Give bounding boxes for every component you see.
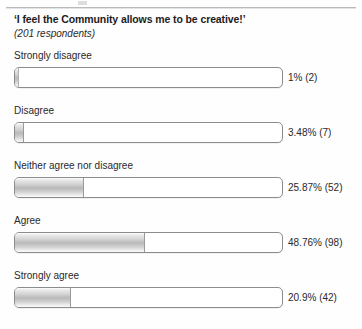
bar-line: 48.76% (98): [14, 232, 362, 254]
bar-track: [14, 232, 283, 253]
bar-row: Strongly disagree 1% (2): [0, 49, 362, 104]
survey-results-chart: ‘I feel the Community allows me to be cr…: [0, 0, 362, 329]
bar-fill: [15, 288, 71, 307]
bar-fill: [15, 123, 24, 142]
bar-fill: [15, 68, 19, 87]
bar-value-label: 1% (2): [288, 71, 317, 84]
bar-track: [14, 122, 283, 143]
bar-row-label: Neither agree nor disagree: [14, 159, 133, 172]
bar-row: Strongly agree 20.9% (42): [0, 269, 362, 324]
chart-subtitle-respondents: (201 respondents): [14, 27, 350, 40]
bar-row-label: Disagree: [14, 104, 54, 117]
bar-track: [14, 67, 283, 88]
bar-track: [14, 177, 283, 198]
bar-value-label: 3.48% (7): [288, 126, 331, 139]
bar-fill: [15, 233, 145, 252]
bar-row-label: Agree: [14, 214, 41, 227]
bar-row: Agree 48.76% (98): [0, 214, 362, 269]
bar-row: Disagree 3.48% (7): [0, 104, 362, 159]
bar-row: Neither agree nor disagree 25.87% (52): [0, 159, 362, 214]
bar-line: 1% (2): [14, 67, 362, 89]
page-artifact-speck: [78, 1, 87, 5]
bar-value-label: 25.87% (52): [288, 181, 342, 194]
top-divider-rule-shadow: [6, 8, 356, 9]
bar-row-label: Strongly disagree: [14, 49, 92, 62]
bar-rows: Strongly disagree 1% (2) Disagree 3.48% …: [0, 49, 362, 324]
bar-track: [14, 287, 283, 308]
bar-value-label: 20.9% (42): [288, 291, 337, 304]
bar-fill: [15, 178, 84, 197]
chart-title: ‘I feel the Community allows me to be cr…: [14, 13, 350, 26]
chart-heading: ‘I feel the Community allows me to be cr…: [14, 13, 350, 40]
bar-value-label: 48.76% (98): [288, 236, 342, 249]
bar-line: 20.9% (42): [14, 287, 362, 309]
bar-row-label: Strongly agree: [14, 269, 79, 282]
bar-line: 3.48% (7): [14, 122, 362, 144]
bar-line: 25.87% (52): [14, 177, 362, 199]
